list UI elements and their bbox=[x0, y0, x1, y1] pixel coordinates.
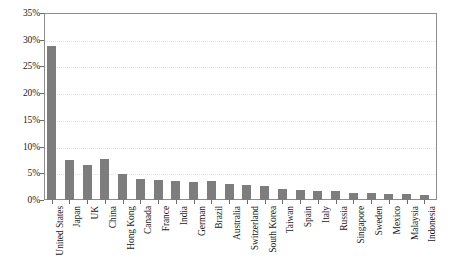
x-tick-label: Japan bbox=[73, 206, 82, 227]
x-tick-mark bbox=[211, 200, 212, 204]
x-tick-label: Canada bbox=[144, 206, 153, 234]
x-tick-label: France bbox=[162, 206, 171, 231]
x-tick-label: Hong Kong bbox=[127, 206, 136, 250]
x-tick-mark bbox=[123, 200, 124, 204]
x-tick-label: India bbox=[180, 206, 189, 225]
x-tick-mark bbox=[353, 200, 354, 204]
x-tick-label: Indonesia bbox=[428, 206, 437, 242]
bar-chart: 0%5%10%15%20%25%30%35% United StatesJapa… bbox=[0, 0, 453, 278]
x-tick-label: Mexico bbox=[393, 206, 402, 234]
x-tick-mark bbox=[336, 200, 337, 204]
x-tick-label: Russia bbox=[340, 206, 349, 231]
x-tick-mark bbox=[407, 200, 408, 204]
x-tick-mark bbox=[247, 200, 248, 204]
x-tick-label: Brazil bbox=[215, 206, 224, 229]
x-tick-mark bbox=[229, 200, 230, 204]
x-tick-label: German bbox=[198, 206, 207, 236]
x-axis: United StatesJapanUKChinaHong KongCanada… bbox=[0, 0, 453, 278]
x-tick-mark bbox=[87, 200, 88, 204]
x-tick-mark bbox=[424, 200, 425, 204]
x-tick-label: Malaysia bbox=[411, 206, 420, 240]
x-tick-label: United States bbox=[56, 206, 65, 256]
x-tick-mark bbox=[389, 200, 390, 204]
x-tick-label: China bbox=[109, 206, 118, 228]
x-tick-label: Sweden bbox=[375, 206, 384, 235]
x-tick-mark bbox=[52, 200, 53, 204]
x-tick-label: Australia bbox=[233, 206, 242, 240]
x-tick-label: UK bbox=[91, 206, 100, 220]
x-tick-mark bbox=[194, 200, 195, 204]
x-tick-label: Italy bbox=[322, 206, 331, 223]
x-tick-mark bbox=[158, 200, 159, 204]
x-tick-label: Singapore bbox=[357, 206, 366, 244]
x-tick-mark bbox=[300, 200, 301, 204]
x-tick-mark bbox=[371, 200, 372, 204]
x-tick-mark bbox=[176, 200, 177, 204]
x-tick-mark bbox=[282, 200, 283, 204]
x-tick-mark bbox=[265, 200, 266, 204]
x-tick-label: South Korea bbox=[269, 206, 278, 253]
x-tick-label: Switzerland bbox=[251, 206, 260, 250]
x-tick-label: Taiwan bbox=[286, 206, 295, 233]
x-tick-mark bbox=[318, 200, 319, 204]
x-tick-mark bbox=[69, 200, 70, 204]
x-tick-mark bbox=[105, 200, 106, 204]
x-tick-label: Spain bbox=[304, 206, 313, 227]
x-tick-mark bbox=[140, 200, 141, 204]
